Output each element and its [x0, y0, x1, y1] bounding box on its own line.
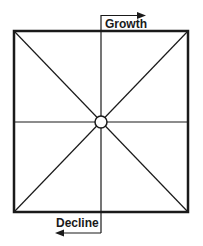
decline-arrow-icon	[55, 230, 64, 237]
growth-decline-diagram	[0, 0, 203, 246]
growth-label: Growth	[105, 18, 147, 30]
decline-label: Decline	[56, 217, 99, 229]
center-circle	[95, 116, 107, 128]
